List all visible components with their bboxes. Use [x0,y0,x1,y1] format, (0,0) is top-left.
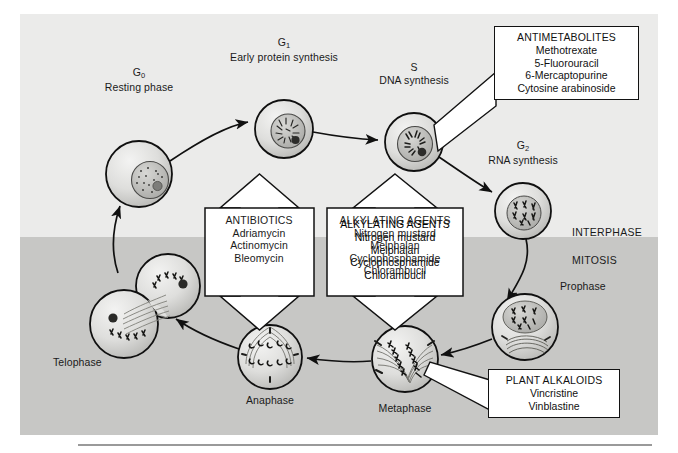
bottom-rule [78,444,652,446]
diagram-frame: G0 Resting phase G1 Early protein synthe… [20,14,658,435]
callout-plant-alkaloids: PLANT ALKALOIDS Vincristine Vinblastine [488,369,620,418]
callout-plant-alkaloids-item-0: Vincristine [496,387,612,400]
callout-plant-alkaloids-item-1: Vinblastine [496,400,612,413]
callout-plant-alkaloids-title: PLANT ALKALOIDS [496,374,612,387]
cell-cycle-figure: G0 Resting phase G1 Early protein synthe… [0,0,678,453]
